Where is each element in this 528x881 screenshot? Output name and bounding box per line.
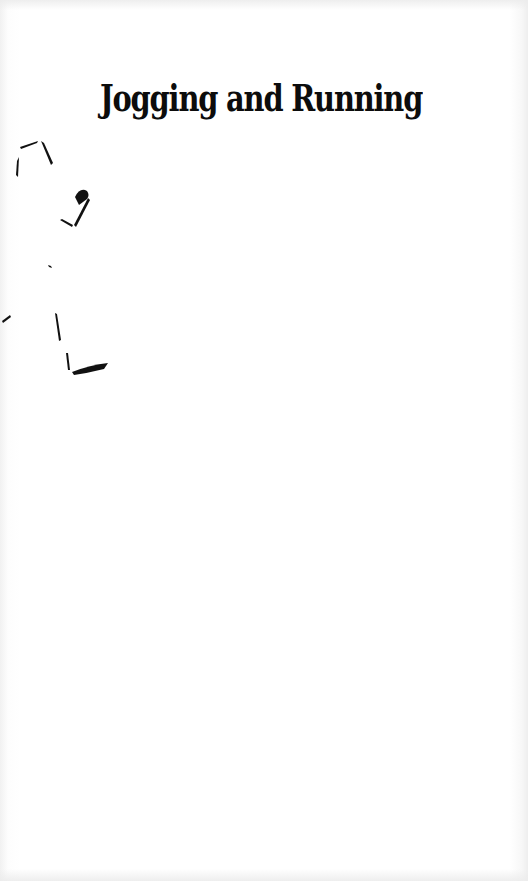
page-title: Jogging and Running	[100, 76, 357, 120]
running-figure-icon	[0, 125, 130, 385]
book-cover-page: Jogging and Running	[0, 0, 528, 881]
